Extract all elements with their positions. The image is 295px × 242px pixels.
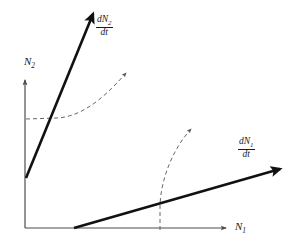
dn2-dt-label: dN2 dt xyxy=(96,15,113,38)
dn1-dt-label: dN1 dt xyxy=(238,137,255,160)
dn2-dt-denominator: dt xyxy=(96,28,113,38)
y-axis-label: N2 xyxy=(24,56,35,70)
upper-dashed-trajectory xyxy=(26,73,126,119)
figure-canvas xyxy=(0,0,295,242)
dn1-dt-denominator: dt xyxy=(238,150,255,160)
x-axis-label: N1 xyxy=(235,221,246,235)
dn2-dt-numerator: dN2 xyxy=(96,15,113,28)
phase-plane-figure: dN2 dt dN1 dt N2 N1 xyxy=(0,0,295,242)
dn1-dt-numerator: dN1 xyxy=(238,137,255,150)
dn1-dt-isocline xyxy=(74,169,280,228)
dn2-dt-isocline xyxy=(26,14,93,178)
lower-dashed-trajectory xyxy=(160,129,191,230)
